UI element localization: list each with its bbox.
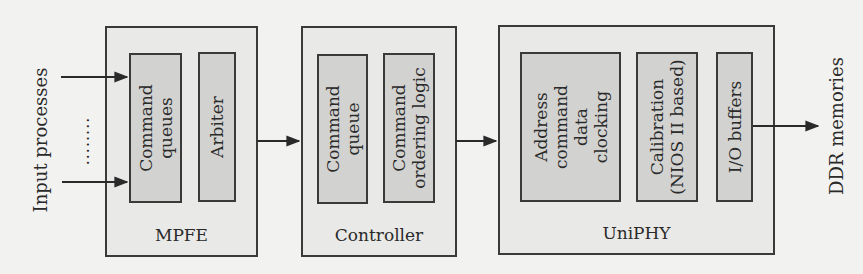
- memory-controller-diagram: Input processes ........ MPFE Command qu…: [0, 0, 863, 274]
- connector-arrows: [0, 0, 863, 274]
